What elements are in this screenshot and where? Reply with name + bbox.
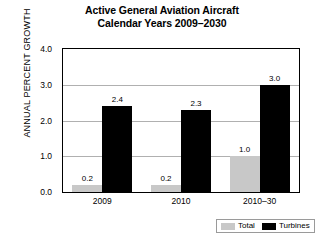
- bar-value-label: 2.3: [181, 100, 211, 108]
- bar-total: [72, 185, 102, 192]
- y-tick-label: 1.0: [0, 152, 52, 161]
- bar-value-label: 2.4: [102, 96, 132, 104]
- y-axis-title: ANNUAL PERCENT GROWTH: [22, 0, 32, 148]
- bar-total: [230, 156, 260, 192]
- bar-value-label: 1.0: [230, 146, 260, 154]
- plot-area: [62, 48, 300, 193]
- bar-total: [151, 185, 181, 192]
- legend-label: Total: [238, 222, 255, 230]
- bar-value-label: 3.0: [260, 75, 290, 83]
- chart-page: { "chart_data": { "type": "bar", "title"…: [0, 0, 324, 244]
- legend-swatch: [221, 223, 235, 230]
- legend-swatch: [262, 223, 276, 230]
- y-tick-label: 0.0: [0, 188, 52, 197]
- bar-value-label: 0.2: [151, 175, 181, 183]
- x-tick-label: 2009: [63, 197, 142, 206]
- y-tick-label: 2.0: [0, 117, 52, 126]
- y-tick-label: 3.0: [0, 81, 52, 90]
- x-tick-label: 2010–30: [220, 197, 299, 206]
- x-tick-label: 2010: [142, 197, 221, 206]
- bar-value-label: 0.2: [72, 175, 102, 183]
- legend-entry: Turbines: [262, 222, 310, 230]
- chart-title: Active General Aviation Aircraft Calenda…: [0, 4, 324, 30]
- bar-turbines: [181, 110, 211, 192]
- legend-label: Turbines: [279, 222, 310, 230]
- chart-title-line-1: Active General Aviation Aircraft: [0, 4, 324, 17]
- bar-turbines: [260, 85, 290, 192]
- legend-entry: Total: [221, 222, 255, 230]
- y-tick-label: 4.0: [0, 45, 52, 54]
- bar-turbines: [102, 106, 132, 192]
- chart-legend: TotalTurbines: [216, 219, 315, 233]
- chart-title-line-2: Calendar Years 2009–2030: [0, 17, 324, 30]
- plot-inner: [63, 49, 299, 192]
